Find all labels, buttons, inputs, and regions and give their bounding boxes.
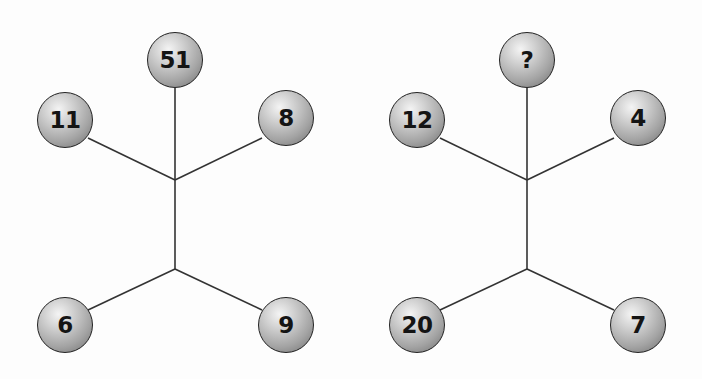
ball-top: 51 [147,32,203,88]
ball-upper-left: 12 [389,92,445,148]
ball-top-unknown: ? [499,32,555,88]
ball-upper-right: 4 [610,90,666,146]
ball-lower-left: 20 [389,297,445,353]
ball-upper-left: 11 [37,92,93,148]
ball-lower-right: 9 [258,297,314,353]
ball-upper-right: 8 [258,90,314,146]
connector-lines [0,0,702,379]
ball-lower-right: 7 [610,297,666,353]
ball-lower-left: 6 [37,297,93,353]
